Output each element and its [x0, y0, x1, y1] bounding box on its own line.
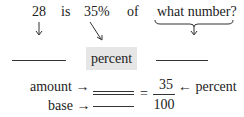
fraction-bar-left [93, 94, 134, 95]
denominator-blank [93, 106, 134, 107]
percent-label-text: percent [196, 79, 237, 94]
fraction-bar-right [153, 94, 175, 95]
denominator-value: 100 [153, 97, 175, 113]
numerator-value: 35 [156, 77, 176, 93]
percent-box: percent [86, 47, 137, 70]
numerator-blank [93, 91, 134, 92]
base-label: base → [48, 98, 90, 114]
amount-label-text: amount [30, 79, 72, 94]
arrow-right-icon: → [76, 79, 90, 94]
percent-label: ← percent [178, 79, 237, 95]
arrow-left-icon: ← [178, 79, 192, 94]
arrow-right-icon: → [76, 98, 90, 113]
base-blank [156, 60, 208, 61]
equals-sign: = [140, 86, 148, 102]
base-label-text: base [48, 98, 73, 113]
amount-label: amount → [30, 79, 90, 95]
amount-blank [12, 60, 66, 61]
